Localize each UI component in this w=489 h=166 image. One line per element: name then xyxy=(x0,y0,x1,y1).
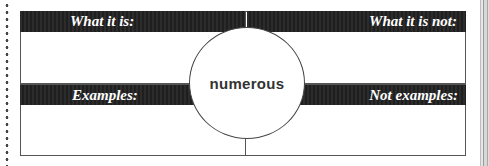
label-what-it-is-not: What it is not: xyxy=(369,11,457,32)
label-examples: Examples: xyxy=(72,85,138,105)
dotted-margin-line xyxy=(5,2,9,166)
header-bar-what-it-is: What it is: xyxy=(20,11,245,32)
label-not-examples: Not examples: xyxy=(369,85,458,105)
header-bar-what-it-is-not: What it is not: xyxy=(247,11,467,32)
center-circle: numerous xyxy=(189,27,305,139)
label-what-it-is: What it is: xyxy=(70,11,134,32)
center-word: numerous xyxy=(210,75,285,92)
page-edge-strip xyxy=(480,0,489,166)
